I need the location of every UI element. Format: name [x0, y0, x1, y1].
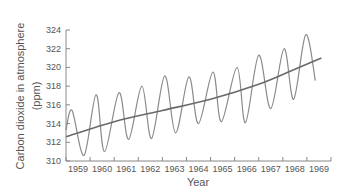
x-tick-label: 1962 — [140, 164, 160, 174]
y-axis-title: Carbon dioxide in atmosphere (ppm) — [14, 23, 42, 170]
x-tick-label: 1969 — [309, 164, 329, 174]
x-tick-label: 1964 — [188, 164, 208, 174]
x-axis-label: Year — [187, 176, 210, 188]
y-tick-label: 314 — [46, 119, 61, 129]
y-tick-label: 318 — [46, 81, 61, 91]
y-tick-label: 312 — [46, 137, 61, 147]
y-tick-label: 320 — [46, 62, 61, 72]
y-tick-label: 324 — [46, 25, 61, 35]
y-axis-units: (ppm) — [30, 82, 42, 111]
y-tick-label: 310 — [46, 156, 61, 166]
x-tick-label: 1967 — [261, 164, 281, 174]
x-tick-label: 1959 — [68, 164, 88, 174]
x-tick-label: 1961 — [116, 164, 136, 174]
series-group — [66, 35, 321, 156]
x-tick-label: 1965 — [213, 164, 233, 174]
co2-seasonal-line — [66, 35, 315, 156]
y-axis-label: Carbon dioxide in atmosphere — [14, 23, 26, 170]
axes: 3103123143163183203223241959196019611962… — [46, 25, 331, 174]
co2-chart: Carbon dioxide in atmosphere (ppm) 31031… — [0, 0, 347, 196]
x-tick-label: 1968 — [285, 164, 305, 174]
x-tick-label: 1963 — [164, 164, 184, 174]
x-tick-label: 1966 — [237, 164, 257, 174]
x-tick-label: 1960 — [92, 164, 112, 174]
y-tick-label: 316 — [46, 100, 61, 110]
y-tick-label: 322 — [46, 44, 61, 54]
